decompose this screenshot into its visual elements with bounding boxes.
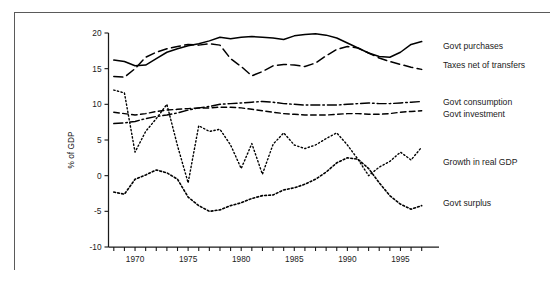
x-tick-label: 1990	[338, 254, 357, 264]
legend-label-4: Growth in real GDP	[443, 157, 518, 167]
legend-label-2: Govt consumption	[443, 97, 512, 107]
y-tick-label: 15	[92, 64, 102, 74]
y-axis-title: % of GDP	[66, 131, 76, 168]
x-tick-label: 1980	[232, 254, 251, 264]
legend-label-3: Govt investment	[443, 109, 506, 119]
y-tick-label: 5	[97, 135, 102, 145]
series-line-0	[114, 34, 422, 66]
series-line-4	[114, 90, 422, 183]
y-tick-label: -5	[94, 206, 102, 216]
y-axis: 20151050-5-10	[90, 28, 109, 252]
legend-label-1: Taxes net of transfers	[443, 60, 525, 70]
series-line-5	[114, 158, 422, 212]
x-tick-label: 1975	[179, 254, 198, 264]
x-tick-label: 1995	[391, 254, 410, 264]
chart-figure: 20151050-5-10 197019751980198519901995 G…	[0, 0, 550, 288]
y-tick-label: 0	[97, 171, 102, 181]
chart-legend: Govt purchasesTaxes net of transfersGovt…	[443, 41, 525, 208]
y-tick-label: -10	[90, 242, 102, 252]
y-tick-label: 10	[92, 99, 102, 109]
chart-plot-area: 20151050-5-10 197019751980198519901995 G…	[0, 0, 550, 288]
x-tick-label: 1985	[285, 254, 304, 264]
x-axis: 197019751980198519901995	[109, 247, 440, 264]
series-line-1	[114, 44, 422, 78]
data-series-group	[114, 34, 422, 212]
y-tick-label: 20	[92, 28, 102, 38]
series-line-3	[114, 107, 422, 115]
legend-label-0: Govt purchases	[443, 41, 503, 51]
legend-label-5: Govt surplus	[443, 198, 491, 208]
x-tick-label: 1970	[126, 254, 145, 264]
